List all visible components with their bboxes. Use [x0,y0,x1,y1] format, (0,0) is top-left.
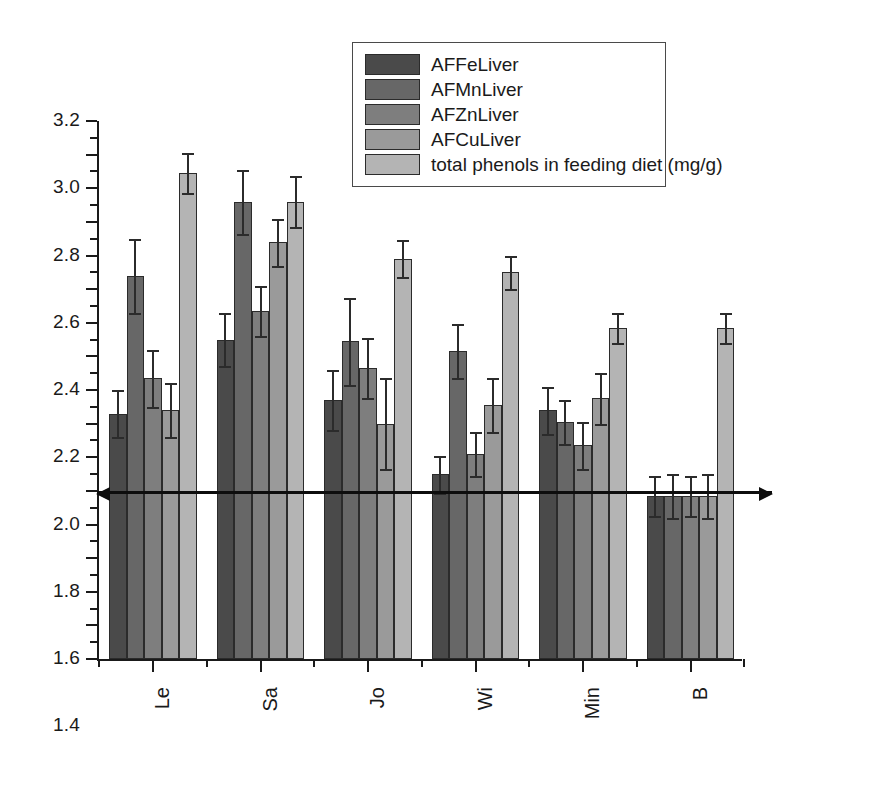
error-cap-upper [487,378,499,380]
error-cap-lower [452,378,464,380]
error-cap-upper [559,400,571,402]
y-tick-major: 0.0 [86,658,97,660]
error-bar [367,338,369,399]
error-cap-upper [505,256,517,258]
bar [592,398,610,659]
error-bar [582,422,584,469]
x-category-label: Le [151,687,174,709]
bar [467,454,485,659]
x-tick-minor [313,659,315,667]
error-cap-lower [487,432,499,434]
legend-swatch [365,79,420,100]
bar-group [217,121,305,659]
bar [484,405,502,659]
error-bar [134,239,136,313]
error-bar [117,390,119,437]
error-cap-lower [165,437,177,439]
bar [574,445,592,659]
error-bar [385,378,387,469]
error-cap-lower [667,518,679,520]
error-cap-upper [290,176,302,178]
x-tick-major [582,659,584,672]
y-tick-minor [90,339,97,341]
error-cap-upper [237,170,249,172]
error-cap-lower [649,516,661,518]
error-cap-upper [434,456,446,458]
bar [217,340,235,659]
error-bar [547,387,549,434]
error-cap-lower [219,366,231,368]
error-bar [457,324,459,378]
error-bar [672,474,674,518]
error-cap-upper [542,387,554,389]
error-cap-lower [327,430,339,432]
x-axis-line [97,659,742,661]
bar [287,202,305,659]
legend-item[interactable]: AFFeLiver [365,52,655,77]
error-cap-upper [397,240,409,242]
bar-group [432,121,520,659]
error-cap-lower [129,313,141,315]
error-cap-lower [397,277,409,279]
y-tick-minor [90,574,97,576]
error-bar [402,240,404,277]
y-tick-minor [90,439,97,441]
plot-area: 0.00.20.40.60.81.01.21.41.61.82.02.22.42… [97,121,742,661]
error-cap-lower [702,518,714,520]
error-bar [439,456,441,493]
error-cap-lower [595,424,607,426]
y-tick-major: 1.8 [86,355,97,357]
y-tick-major: 2.8 [86,187,97,189]
error-cap-upper [649,476,661,478]
bar [162,410,180,659]
error-cap-upper [667,474,679,476]
y-tick-major: 0.4 [86,591,97,593]
bar [359,368,377,659]
x-tick-major [260,659,262,672]
y-tick-minor [90,540,97,542]
error-bar [187,153,189,193]
y-tick-minor [90,238,97,240]
error-cap-upper [685,476,697,478]
error-cap-lower [290,227,302,229]
x-category-label: Jo [366,687,389,708]
error-cap-lower [542,434,554,436]
error-cap-lower [272,266,284,268]
error-cap-upper [112,390,124,392]
legend-item[interactable]: AFMnLiver [365,77,655,102]
error-bar [564,400,566,444]
error-bar [475,432,477,476]
error-cap-lower [255,336,267,338]
y-tick-label: 3.2 [53,109,80,131]
x-category-label: Wi [473,687,496,710]
y-tick-major: 3.0 [86,154,97,156]
error-cap-upper [720,313,732,315]
y-tick-major: 0.2 [86,624,97,626]
bar [324,400,342,659]
error-cap-upper [362,338,374,340]
error-cap-lower [362,398,374,400]
error-bar [492,378,494,432]
error-bar [510,256,512,290]
x-tick-major [152,659,154,672]
bar [449,351,467,659]
y-tick-label: 2.2 [53,445,80,467]
error-cap-lower [344,385,356,387]
y-tick-label: 2.6 [53,311,80,333]
error-cap-upper [577,422,589,424]
error-cap-upper [452,324,464,326]
bar [394,259,412,659]
y-tick-label: 2.4 [53,378,80,400]
error-cap-lower [237,234,249,236]
error-cap-upper [165,383,177,385]
error-bar [277,219,279,266]
error-cap-upper [255,286,267,288]
bar [179,173,197,659]
error-cap-upper [147,350,159,352]
bar-group [324,121,412,659]
y-tick-label: 2.0 [53,513,80,535]
y-tick-minor [90,507,97,509]
error-bar [152,350,154,407]
y-tick-major: 2.4 [86,255,97,257]
error-bar [707,474,709,518]
